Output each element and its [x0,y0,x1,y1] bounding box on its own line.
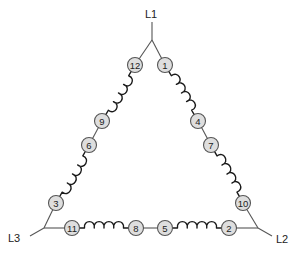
line-label-l1: L1 [145,8,157,20]
terminal-label: 9 [99,116,104,127]
coil-11-8 [80,222,129,228]
terminal-3: 3 [49,196,64,211]
terminal-label: 1 [162,60,167,71]
coil-6-3 [60,152,87,197]
delta-winding-diagram: 147101296311852 L1 L2 L3 [0,0,303,257]
line-lead-l3 [30,228,44,236]
line-lead-l2 [258,228,272,236]
terminal-4: 4 [191,114,206,129]
terminal-label: 5 [162,223,167,234]
line-label-l3: L3 [8,232,20,244]
terminal-8: 8 [129,221,144,236]
terminal-label: 4 [195,116,200,127]
terminal-markers: 147101296311852 [49,58,251,236]
terminal-11: 11 [65,221,80,236]
terminal-label: 7 [208,140,213,151]
terminal-1: 1 [158,58,173,73]
coil-12-9 [106,71,133,114]
terminal-label: 2 [226,223,231,234]
terminal-label: 12 [130,60,141,71]
coil-5-2 [173,222,222,228]
terminal-10: 10 [236,196,251,211]
terminal-6: 6 [82,138,97,153]
terminal-label: 11 [67,223,77,234]
branch-l2-10 [247,209,258,228]
terminal-2: 2 [222,221,237,236]
terminal-7: 7 [204,138,219,153]
terminal-label: 8 [133,223,138,234]
terminal-label: 10 [238,198,249,209]
branch-l1-12 [139,40,152,59]
terminal-label: 6 [86,140,91,151]
terminal-12: 12 [128,58,143,73]
link-9-6 [93,128,99,139]
link-4-7 [202,128,208,139]
terminal-label: 3 [53,198,58,209]
line-label-l2: L2 [276,233,288,245]
branch-l3-3 [44,210,53,228]
coil-1-4 [169,71,196,114]
coil-7-10 [215,152,241,197]
terminal-9: 9 [95,114,110,129]
branch-l1-1 [152,40,162,58]
terminal-5: 5 [158,221,173,236]
